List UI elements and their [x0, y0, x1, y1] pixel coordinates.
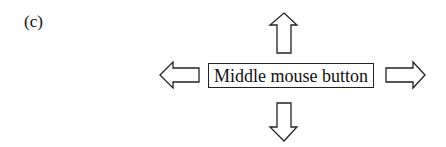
box-label: Middle mouse button	[214, 67, 368, 85]
middle-mouse-button-box: Middle mouse button	[208, 63, 374, 88]
arrow-left-outline-icon	[160, 62, 199, 88]
arrow-right-outline-icon	[386, 62, 425, 88]
arrow-up-outline-icon	[270, 13, 297, 53]
arrow-down-outline-icon	[270, 103, 297, 141]
